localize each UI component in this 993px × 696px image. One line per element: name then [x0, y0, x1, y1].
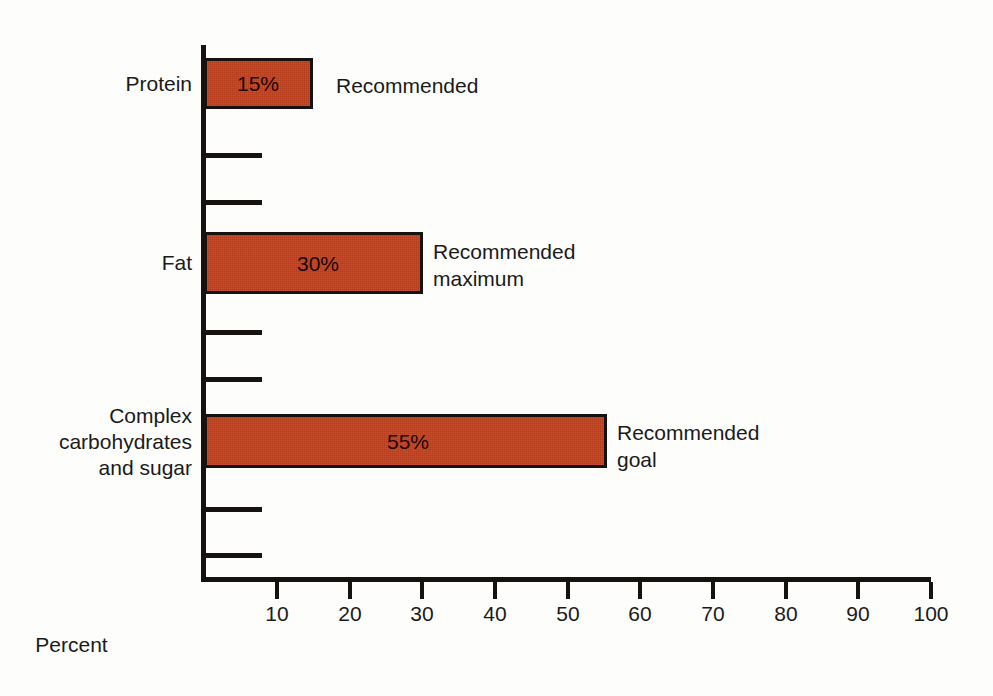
x-axis-title-text: Percent: [35, 633, 107, 656]
y-axis-tick: [204, 330, 262, 335]
x-axis-tick: [420, 582, 424, 599]
x-axis-tick-label: 80: [756, 601, 816, 627]
y-axis-tick: [204, 507, 262, 512]
x-axis-tick-label: 60: [610, 601, 670, 627]
x-axis-tick-label: 10: [247, 601, 307, 627]
annotation-protein: Recommended: [336, 72, 478, 99]
y-axis-line: [201, 45, 206, 582]
y-axis-tick: [204, 553, 262, 558]
x-axis-tick: [348, 582, 352, 599]
annotation-fat: Recommended maximum: [433, 238, 575, 292]
category-label-complex-carbohydrates-and-sugar: Complex carbohydrates and sugar: [59, 403, 192, 481]
x-axis-tick: [711, 582, 715, 599]
x-axis-tick: [856, 582, 860, 599]
x-axis-tick-label: 50: [538, 601, 598, 627]
x-axis-tick: [638, 582, 642, 599]
bar-value-fat: 30%: [297, 252, 339, 276]
x-axis-tick-label: 20: [320, 601, 380, 627]
y-axis-tick: [204, 377, 262, 382]
x-axis-tick-label: 90: [828, 601, 888, 627]
x-axis-tick: [566, 582, 570, 599]
category-label-protein: Protein: [125, 71, 192, 97]
bar-value-complex-carbohydrates-and-sugar: 55%: [387, 430, 429, 454]
x-axis-title: Percent: [0, 633, 993, 657]
annotation-complex-carbohydrates-and-sugar: Recommended goal: [617, 419, 759, 473]
x-axis-tick-label: 70: [683, 601, 743, 627]
x-axis-tick-label: 30: [392, 601, 452, 627]
x-axis-tick: [493, 582, 497, 599]
category-label-fat: Fat: [162, 250, 192, 276]
x-axis-tick: [784, 582, 788, 599]
y-axis-tick: [204, 200, 262, 205]
x-axis-tick-label: 40: [465, 601, 525, 627]
bar-chart: 15% Protein Recommended 30% Fat Recommen…: [0, 0, 993, 696]
x-axis-tick-label: 100: [901, 601, 961, 627]
x-axis-tick: [275, 582, 279, 599]
bar-value-protein: 15%: [237, 72, 279, 96]
y-axis-tick: [204, 153, 262, 158]
x-axis-tick: [929, 582, 933, 599]
